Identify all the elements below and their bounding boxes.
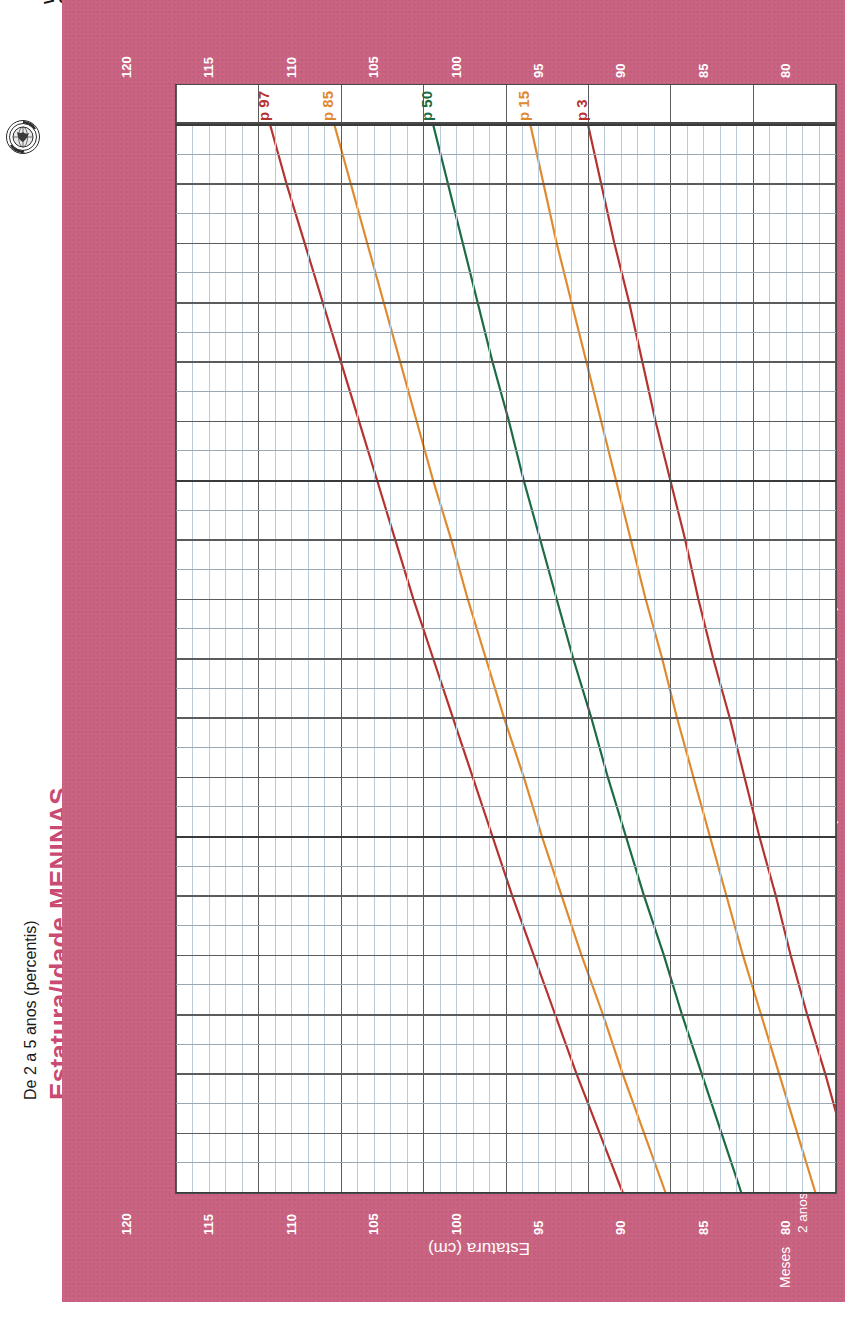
who-name-line1: World Health: [41, 0, 57, 4]
gridline-month-major: [176, 777, 836, 779]
gridline-month-minor: [176, 510, 836, 511]
gridline-month-minor: [176, 925, 836, 926]
x-tick-85: 85: [696, 64, 711, 78]
gridline-month-minor: [176, 688, 836, 689]
gridline-month-major: [176, 1133, 836, 1135]
gridline-cm-major: [670, 85, 671, 122]
gridline-month-minor: [176, 747, 836, 748]
percentile-label-p3: p 3: [573, 99, 590, 121]
x-tick-80: 80: [778, 64, 793, 78]
gridline-month-major: [176, 599, 836, 601]
percentile-label-p15: p 15: [515, 91, 532, 121]
page-subtitle: De 2 a 5 anos (percentis): [22, 920, 40, 1100]
gridline-cm-major: [506, 85, 507, 122]
x-tick-95: 95: [531, 64, 546, 78]
gridline-month-minor: [176, 628, 836, 629]
gridline-month-major: [176, 895, 836, 897]
x-axis-title: Estatura (cm): [428, 1238, 530, 1258]
gridline-month-minor: [176, 332, 836, 333]
grid-area: [176, 124, 836, 1193]
gridline-month-minor: [176, 450, 836, 451]
who-emblem-icon: [5, 119, 41, 155]
x-tick-105: 105: [366, 56, 381, 78]
percentile-label-p97: p 97: [255, 91, 272, 121]
gridline-month-major: [176, 421, 836, 423]
gridline-month-minor: [176, 1103, 836, 1104]
gridline-month-major: [176, 361, 836, 363]
x-tick-bottom-105: 105: [366, 1213, 381, 1235]
gridline-month-major: [176, 243, 836, 245]
x-tick-bottom-100: 100: [449, 1213, 464, 1235]
gridline-month-major: [176, 183, 836, 185]
x-tick-120: 120: [119, 56, 134, 78]
gridline-year: [176, 124, 836, 126]
x-tick-bottom-95: 95: [531, 1221, 546, 1235]
gridline-month-major: [176, 539, 836, 541]
x-tick-bottom-120: 120: [119, 1213, 134, 1235]
x-tick-100: 100: [449, 56, 464, 78]
gridline-cm-major: [176, 85, 177, 122]
who-logo: World Health Organization: [2, 4, 60, 154]
gridline-month-minor: [176, 272, 836, 273]
percentile-label-p50: p 50: [418, 91, 435, 121]
y-axis-unit-label: Meses: [777, 1247, 793, 1288]
gridline-cm-major: [835, 85, 836, 122]
x-tick-bottom-80: 80: [778, 1221, 793, 1235]
gridline-year: [176, 480, 836, 482]
gridline-month-major: [176, 717, 836, 719]
gridline-cm-major: [753, 85, 754, 122]
gridline-month-minor: [176, 1162, 836, 1163]
x-tick-bottom-90: 90: [613, 1221, 628, 1235]
plot-area: p 97p 85p 50p 15p 3: [175, 84, 837, 1194]
gridline-month-major: [176, 955, 836, 957]
x-tick-110: 110: [284, 57, 299, 78]
percentile-label-p85: p 85: [319, 91, 336, 121]
chart-panel: 12011511010510095908580 1201151101051009…: [62, 0, 845, 1302]
x-tick-bottom-85: 85: [696, 1221, 711, 1235]
gridline-month-minor: [176, 984, 836, 985]
gridline-month-major: [176, 1073, 836, 1075]
x-tick-bottom-110: 110: [284, 1214, 299, 1235]
gridline-month-minor: [176, 213, 836, 214]
gridline-month-major: [176, 1014, 836, 1016]
gridline-month-minor: [176, 806, 836, 807]
gridline-year: [176, 836, 836, 838]
percentile-label-strip: p 97p 85p 50p 15p 3: [176, 85, 836, 124]
gridline-month-major: [176, 302, 836, 304]
x-tick-bottom-115: 115: [201, 1214, 216, 1235]
x-tick-115: 115: [201, 57, 216, 78]
gridline-month-minor: [176, 391, 836, 392]
gridline-month-minor: [176, 1044, 836, 1045]
header-column: World Health Organization Estatura/Idade…: [0, 0, 62, 1325]
gridline-year: [176, 1192, 836, 1193]
x-tick-90: 90: [613, 64, 628, 78]
gridline-cm-major: [341, 85, 342, 122]
gridline-month-major: [176, 658, 836, 660]
gridline-month-minor: [176, 569, 836, 570]
gridline-month-minor: [176, 154, 836, 155]
gridline-month-minor: [176, 866, 836, 867]
y-tick-2-anos: 2 anos: [795, 1192, 810, 1233]
